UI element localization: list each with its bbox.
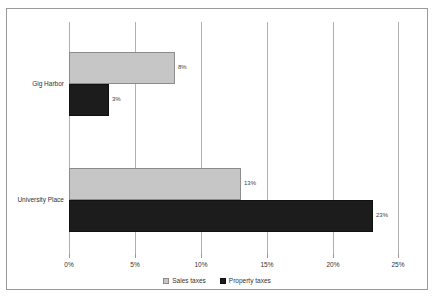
y-axis-label-university-place: University Place	[7, 196, 64, 203]
legend-label-sales-taxes: Sales taxes	[172, 277, 206, 284]
x-tick-label-15: 15%	[260, 261, 273, 268]
x-tick-mark-0	[69, 254, 70, 258]
bar-university-place-property-taxes	[69, 200, 373, 232]
x-tick-label-20: 20%	[326, 261, 339, 268]
bar-label-university-place-sales-taxes: 13%	[244, 180, 256, 186]
bar-gig-harbor-sales-taxes	[69, 52, 175, 84]
y-axis-label-gig-harbor: Gig Harbor	[7, 80, 64, 87]
x-tick-label-5: 5%	[130, 261, 139, 268]
x-tick-mark-20	[333, 254, 334, 258]
bar-label-gig-harbor-sales-taxes: 8%	[178, 64, 187, 70]
legend-label-property-taxes: Property taxes	[229, 277, 271, 284]
x-tick-label-10: 10%	[194, 261, 207, 268]
legend-swatch-icon-sales-taxes	[163, 278, 169, 284]
plot-area: 8% 3% 13% 23%	[69, 22, 399, 254]
chart-legend: Sales taxes Property taxes	[7, 277, 427, 284]
x-tick-mark-15	[267, 254, 268, 258]
x-tick-mark-5	[135, 254, 136, 258]
x-tick-mark-10	[201, 254, 202, 258]
legend-entry-property-taxes: Property taxes	[220, 277, 271, 284]
bar-university-place-sales-taxes	[69, 168, 241, 200]
chart-frame: 8% 3% 13% 23% Gig Harbor University Plac…	[6, 8, 428, 290]
legend-entry-sales-taxes: Sales taxes	[163, 277, 206, 284]
x-tick-mark-25	[398, 254, 399, 258]
bar-gig-harbor-property-taxes	[69, 84, 109, 116]
x-tick-label-0: 0%	[64, 261, 73, 268]
x-tick-label-25: 25%	[391, 261, 404, 268]
bar-label-gig-harbor-property-taxes: 3%	[112, 96, 121, 102]
legend-swatch-icon-property-taxes	[220, 278, 226, 284]
gridline-25	[398, 22, 399, 254]
bar-label-university-place-property-taxes: 23%	[376, 212, 388, 218]
